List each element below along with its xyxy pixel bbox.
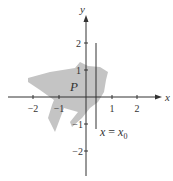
y-axis-arrow-icon (84, 15, 89, 22)
x-tick-label: 2 (135, 103, 140, 114)
y-tick-label: −2 (72, 146, 83, 157)
line-label: x = x0 (99, 125, 127, 141)
y-tick-label: −1 (72, 119, 83, 130)
x-axis-arrow-icon (155, 95, 162, 100)
region-diagram: −2 −1 1 2 2 1 −1 −2 x y P x = x0 (0, 0, 173, 181)
x-tick-label: −1 (54, 103, 65, 114)
y-tick-label: 1 (76, 65, 81, 76)
line-label-sub: 0 (123, 132, 127, 141)
y-axis-label: y (79, 3, 85, 15)
x-axis-label: x (164, 91, 170, 103)
x-tick-label: −2 (28, 103, 39, 114)
region-label: P (69, 79, 78, 94)
x-tick-label: 1 (110, 103, 115, 114)
line-label-eq: = (105, 125, 118, 139)
y-tick-label: 2 (76, 38, 81, 49)
